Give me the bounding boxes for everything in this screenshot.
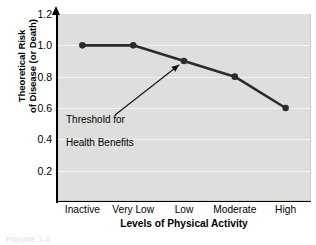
y-axis-tick-label: 0.6: [26, 102, 52, 114]
annotation-line-1: Threshold for: [66, 114, 125, 125]
x-axis-tick-label: Low: [175, 204, 194, 215]
chart-screenshot: Theoretical Risk of Disease (or Death) 0…: [0, 0, 316, 245]
x-axis-tick-label: Inactive: [65, 204, 100, 215]
figure-caption: FIGURE 1-3: [6, 235, 50, 244]
y-axis-tick-label: 0.8: [26, 71, 52, 83]
x-axis-tick-labels: InactiveVery LowLowModerateHigh: [57, 204, 311, 217]
y-axis-tick-label: 0.4: [26, 133, 52, 145]
y-axis-tick-labels: 0.20.40.60.81.01.2: [26, 0, 52, 245]
x-axis-tick-label: Very Low: [112, 204, 154, 215]
y-axis-tick-label: 1.2: [26, 8, 52, 20]
annotation-line-2: Health Benefits: [66, 137, 134, 148]
x-axis-tick-label: Moderate: [213, 204, 256, 215]
annotation-label: Threshold for Health Benefits: [66, 102, 134, 148]
x-axis-title: Levels of Physical Activity: [57, 218, 311, 229]
y-axis-tick-label: 1.0: [26, 39, 52, 51]
y-axis-tick-label: 0.2: [26, 165, 52, 177]
annotation-arrowhead-icon: [171, 65, 179, 72]
x-axis-tick-label: High: [275, 204, 296, 215]
